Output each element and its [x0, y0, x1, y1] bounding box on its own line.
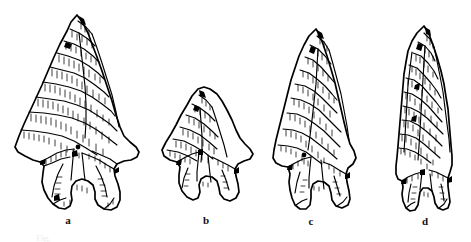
specimen-label-c: c: [301, 216, 321, 227]
specimen-label-a: a: [58, 215, 78, 226]
specimen-label-d: d: [415, 216, 435, 227]
projectile-points-illustration: [0, 0, 471, 242]
specimen-a-drawing: [15, 15, 139, 210]
specimen-d-drawing: [396, 26, 452, 211]
figure-plate: a b c d Fig.: [0, 0, 471, 242]
specimen-b-drawing: [162, 87, 253, 201]
figure-caption: Fig.: [36, 233, 266, 242]
specimen-label-b: b: [196, 215, 216, 226]
specimen-c-drawing: [273, 29, 356, 209]
